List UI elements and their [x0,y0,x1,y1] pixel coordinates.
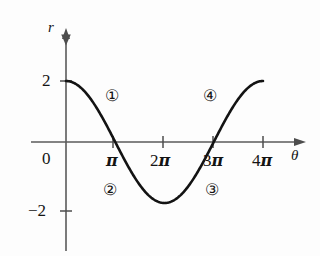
origin-label: 0 [42,150,51,167]
y-axis-arrowhead [62,28,70,39]
pi-symbol: π [261,151,273,170]
region-label-2: ② [103,182,117,198]
region-2-glyph: ② [103,181,117,198]
region-3-glyph: ③ [205,181,219,198]
x-tick-label-4pi: 4π [252,152,272,169]
region-label-3: ③ [205,182,219,198]
y-tick-label-2: 2 [42,72,51,89]
pi-symbol: π [159,151,171,170]
x-axis-label: θ [291,148,298,163]
x-tick-3pi-number: 3 [203,151,212,170]
pi-symbol: π [106,151,118,170]
region-label-1: ① [105,88,119,104]
polar-graph-figure: r θ 0 2 −2 π 2π 3π 4π ① ② ③ ④ [0,0,320,256]
region-1-glyph: ① [105,87,119,104]
y-axis-label: r [48,20,54,35]
y-tick-label-minus-2: −2 [28,202,46,219]
x-tick-2pi-number: 2 [150,151,159,170]
region-label-4: ④ [203,88,217,104]
x-tick-label-2pi: 2π [150,152,170,169]
chart-canvas [0,0,320,256]
x-tick-label-3pi: 3π [203,152,223,169]
x-tick-4pi-number: 4 [252,151,261,170]
x-axis-arrowhead [294,138,306,146]
region-4-glyph: ④ [203,87,217,104]
x-tick-label-pi: π [106,152,118,169]
pi-symbol: π [212,151,224,170]
